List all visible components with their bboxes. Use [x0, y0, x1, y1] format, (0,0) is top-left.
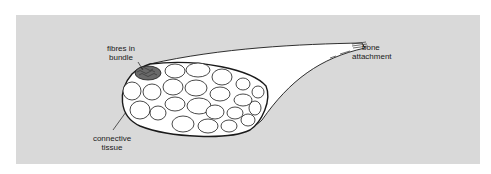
- label-line: fibres in: [100, 44, 142, 53]
- label-bone-attachment: bone attachment: [352, 43, 406, 61]
- label-fibres-in-bundle: fibres in bundle: [100, 44, 142, 62]
- label-connective-tissue: connective tissue: [84, 134, 140, 152]
- leader-connective: [113, 112, 126, 130]
- muscle-diagram: [0, 0, 491, 174]
- label-line: bundle: [100, 53, 142, 62]
- label-line: bone: [352, 43, 406, 52]
- label-line: tissue: [84, 143, 140, 152]
- label-line: attachment: [352, 52, 406, 61]
- label-line: connective: [84, 134, 140, 143]
